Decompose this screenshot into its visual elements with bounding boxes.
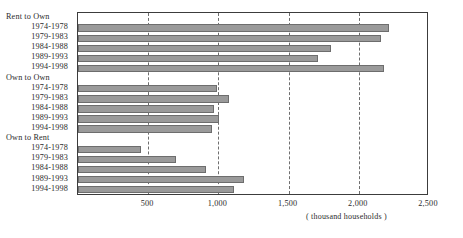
bar-row [78,53,427,63]
bar [78,24,389,31]
bar [78,176,244,183]
category-label: 1994-1998 [0,123,72,133]
x-tick-label-2500: 2,500 [418,198,437,209]
bar-row [78,64,427,74]
bar-row [78,104,427,114]
category-label: 1974-1978 [0,83,72,93]
category-label: 1979-1983 [0,93,72,103]
x-tick-label-1000: 1,000 [208,198,227,209]
category-label: 1994-1998 [0,62,72,72]
bar [78,105,214,112]
category-label: 1994-1998 [0,184,72,194]
category-label: 1989-1993 [0,113,72,123]
bar [78,186,234,193]
bar-row [78,94,427,104]
bar [78,45,331,52]
plot-inner [78,13,427,194]
category-label: 1984-1988 [0,103,72,113]
category-label: 1984-1988 [0,42,72,52]
bar-row [78,114,427,124]
bar [78,85,217,92]
bar [78,65,384,72]
x-axis-unit-label: ( thousand households ) [306,212,387,221]
bar-row [78,23,427,33]
category-label: 1974-1978 [0,22,72,32]
category-label: 1989-1993 [0,174,72,184]
bar [78,146,141,153]
x-tick-label-1500: 1,500 [278,198,297,209]
bar-row [78,154,427,164]
x-tick-label-500: 500 [141,198,154,209]
bar [78,95,229,102]
bar-row [78,144,427,154]
group-label-0: Rent to Own [0,12,72,22]
bar-row [78,33,427,43]
bar [78,156,176,163]
group-label-2: Own to Rent [0,133,72,143]
category-label: 1979-1983 [0,153,72,163]
category-label: 1979-1983 [0,32,72,42]
group-label-1: Own to Own [0,73,72,83]
category-label-column: Rent to Own1974-19781979-19831984-198819… [0,12,72,194]
category-label: 1984-1988 [0,163,72,173]
bar [78,35,381,42]
bar-row [78,165,427,175]
bar-row [78,175,427,185]
bar [78,55,318,62]
plot-area [77,12,428,195]
category-label: 1989-1993 [0,52,72,62]
x-tick-label-2000: 2,000 [348,198,367,209]
category-label: 1974-1978 [0,143,72,153]
bar-chart: Rent to Own1974-19781979-19831984-198819… [0,0,463,238]
bar-row [78,185,427,194]
bar [78,115,219,122]
bar [78,166,206,173]
x-axis-tick-labels: 5001,0001,5002,0002,500 [77,198,428,212]
bar [78,125,212,132]
bar-row [78,84,427,94]
bar-row [78,43,427,53]
bar-row [78,124,427,134]
